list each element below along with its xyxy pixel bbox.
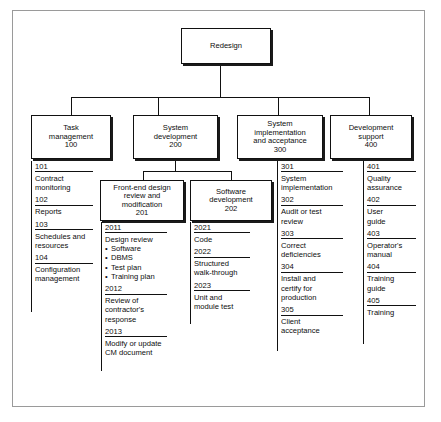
wp-bullet-test-plan: •Test plan [105, 263, 167, 272]
wp-code-104: 104 [35, 252, 93, 263]
wp-code-2023: 2023 [194, 280, 250, 291]
connector-drop-201 [143, 171, 144, 180]
connector-200-stem [175, 159, 176, 171]
wp-desc-103: Schedules and resources [35, 231, 93, 253]
wp-item-301[interactable]: 301 System implementation [277, 161, 343, 194]
wp-desc-2012: Review of contractor's response [105, 295, 167, 326]
node-front-end-design-code: 201 [136, 209, 149, 218]
connector-drop-202 [231, 171, 232, 180]
wp-desc-101: Contract monitoring [35, 173, 93, 195]
wp-desc-401: Quality assurance [367, 173, 416, 195]
node-task-management-code: 100 [65, 141, 78, 150]
wp-code-102: 102 [35, 194, 93, 205]
connector-level2-spine [71, 97, 370, 98]
node-software-development[interactable]: Software development 202 [190, 180, 272, 221]
connector-drop-400 [369, 97, 370, 115]
wp-item-304[interactable]: 304 Install and certify for production [277, 261, 343, 304]
wp-item-403[interactable]: 403 Operator's manual [363, 228, 416, 261]
wp-list-front-end-design: 2011 Design review •Software •DBMS •Test… [101, 222, 167, 359]
connector-level3-spine [143, 171, 232, 172]
wp-item-103[interactable]: 103 Schedules and resources [31, 219, 93, 252]
wp-desc-405: Training [367, 307, 416, 319]
wbs-figure: Redesign Task management 100 System deve… [0, 0, 441, 422]
wp-desc-305: Client acceptance [281, 316, 343, 338]
node-system-development[interactable]: System development 200 [133, 115, 218, 159]
wp-code-404: 404 [367, 261, 416, 272]
wp-code-303: 303 [281, 228, 343, 239]
node-front-end-design[interactable]: Front-end design review and modification… [100, 180, 184, 221]
wp-desc-402: User guide [367, 206, 416, 228]
wp-code-2012: 2012 [105, 283, 167, 294]
wp-bullet-training-plan: •Training plan [105, 272, 167, 281]
connector-root-stem [220, 64, 221, 97]
connector-drop-200 [158, 97, 159, 115]
wp-item-2021[interactable]: 2021 Code [190, 222, 250, 246]
wp-item-104[interactable]: 104 Configuration management [31, 252, 93, 285]
wp-code-103: 103 [35, 219, 93, 230]
wp-desc-2021: Code [194, 234, 250, 246]
wp-list-task-management: 101 Contract monitoring 102 Reports 103 … [31, 161, 93, 286]
wp-desc-104: Configuration management [35, 264, 93, 286]
wp-code-402: 402 [367, 194, 416, 205]
wp-desc-102: Reports [35, 206, 93, 218]
node-system-implementation[interactable]: System implementation and acceptance 300 [237, 115, 323, 159]
node-redesign[interactable]: Redesign [181, 28, 271, 64]
wp-desc-2013: Modify or update CM document [105, 338, 167, 360]
wp-item-2022[interactable]: 2022 Structured walk-through [190, 246, 250, 279]
wp-desc-403: Operator's manual [367, 240, 416, 262]
wp-desc-301: System implementation [281, 173, 343, 195]
wp-bullets-2011: •Software •DBMS •Test plan •Training pla… [105, 244, 167, 281]
wp-item-401[interactable]: 401 Quality assurance [363, 161, 416, 194]
wp-list-software-development: 2021 Code 2022 Structured walk-through 2… [190, 222, 250, 313]
node-redesign-label: Redesign [210, 42, 242, 51]
wp-code-405: 405 [367, 295, 416, 306]
wp-item-302[interactable]: 302 Audit or test review [277, 194, 343, 227]
wp-item-402[interactable]: 402 User guide [363, 194, 416, 227]
wp-item-405[interactable]: 405 Training [363, 295, 416, 319]
node-system-development-code: 200 [169, 141, 182, 150]
wp-desc-2011: Design review •Software •DBMS •Test plan… [105, 234, 167, 283]
wp-item-2023[interactable]: 2023 Unit and module test [190, 280, 250, 313]
node-system-implementation-code: 300 [274, 146, 287, 155]
connector-drop-100 [71, 97, 72, 115]
wp-bullet-dbms: •DBMS [105, 253, 167, 262]
node-development-support[interactable]: Development support 400 [330, 115, 412, 159]
wp-item-102[interactable]: 102 Reports [31, 194, 93, 218]
wp-code-101: 101 [35, 161, 93, 172]
wp-code-305: 305 [281, 304, 343, 315]
wp-item-101[interactable]: 101 Contract monitoring [31, 161, 93, 194]
wp-item-2012[interactable]: 2012 Review of contractor's response [101, 283, 167, 326]
wp-code-401: 401 [367, 161, 416, 172]
wp-item-2011[interactable]: 2011 Design review •Software •DBMS •Test… [101, 222, 167, 283]
wp-desc-304: Install and certify for production [281, 273, 343, 304]
wp-list-development-support: 401 Quality assurance 402 User guide 403… [363, 161, 416, 319]
wp-bullet-software: •Software [105, 244, 167, 253]
wp-code-2021: 2021 [194, 222, 250, 233]
connector-drop-300 [278, 97, 279, 115]
node-task-management[interactable]: Task management 100 [31, 115, 111, 159]
wp-code-2022: 2022 [194, 246, 250, 257]
wp-item-303[interactable]: 303 Correct deficiencies [277, 228, 343, 261]
wp-item-305[interactable]: 305 Client acceptance [277, 304, 343, 337]
wp-list-system-implementation: 301 System implementation 302 Audit or t… [277, 161, 343, 338]
wp-code-304: 304 [281, 261, 343, 272]
wp-code-403: 403 [367, 228, 416, 239]
node-development-support-code: 400 [365, 141, 378, 150]
wp-desc-2022: Structured walk-through [194, 258, 250, 280]
wp-desc-303: Correct deficiencies [281, 240, 343, 262]
wp-desc-302: Audit or test review [281, 206, 343, 228]
wp-desc-2023: Unit and module test [194, 292, 250, 314]
wp-item-404[interactable]: 404 Training guide [363, 261, 416, 294]
wp-desc-404: Training guide [367, 273, 416, 295]
wp-item-2013[interactable]: 2013 Modify or update CM document [101, 326, 167, 359]
wp-code-302: 302 [281, 194, 343, 205]
wp-code-2011: 2011 [105, 222, 167, 233]
wp-code-2013: 2013 [105, 326, 167, 337]
node-software-development-code: 202 [225, 205, 238, 214]
wp-code-301: 301 [281, 161, 343, 172]
